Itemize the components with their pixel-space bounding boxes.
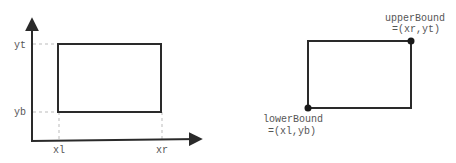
lower-bound-point [305,105,312,112]
bounds-diagram: yt yb xl xr upperBound =(xr,yt) lowerBou… [0,0,456,163]
xl-label: xl [53,145,65,156]
xr-label: xr [156,145,168,156]
guide-lines [33,44,162,140]
bounding-rectangle [58,44,161,112]
yt-label: yt [14,40,26,51]
x-axis [31,139,200,141]
upper-bound-label: upperBound [385,13,445,24]
bounds-rectangle [308,41,411,108]
right-diagram: upperBound =(xr,yt) lowerBound =(xl,yb) [263,13,445,137]
upper-bound-value: =(xr,yt) [392,24,440,35]
upper-bound-point [408,38,415,45]
yb-label: yb [14,107,26,118]
lower-bound-value: =(xl,yb) [268,126,316,137]
lower-bound-label: lowerBound [263,114,323,125]
left-diagram: yt yb xl xr [14,20,200,156]
